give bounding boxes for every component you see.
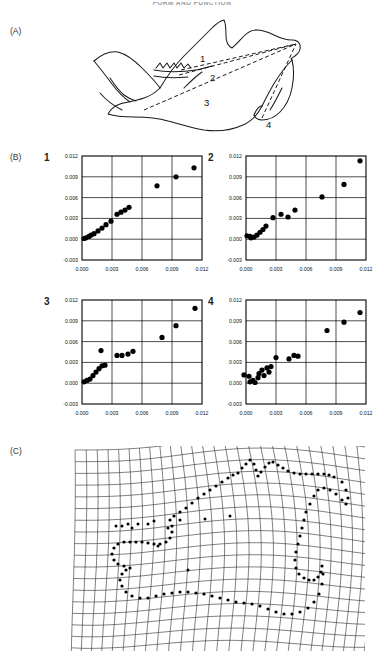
landmark-point (308, 502, 311, 505)
landmark-point (184, 506, 187, 509)
landmark-point (122, 564, 125, 567)
x-tick-label: 0.000 (76, 266, 89, 272)
landmark-point (124, 590, 127, 593)
landmark-point (153, 520, 156, 523)
landmark-point (317, 592, 320, 595)
landmark-point (312, 494, 315, 497)
landmark-point (131, 527, 134, 530)
data-point (273, 355, 278, 360)
landmark-point (236, 471, 239, 474)
landmark-point (170, 591, 173, 594)
panel-b-scatter-grid: 10.0120.0090.0060.0030.000-0.0030.0000.0… (0, 146, 384, 434)
x-tick-label: 0.009 (330, 266, 343, 272)
data-point (108, 219, 113, 224)
landmark-point (244, 462, 247, 465)
landmark-point (242, 601, 245, 604)
data-point (191, 165, 196, 170)
plot-canvas: 0.0120.0090.0060.0030.000-0.0030.0000.00… (42, 148, 220, 290)
data-point (263, 223, 268, 228)
x-tick-label: 0.006 (300, 266, 313, 272)
measurement-line-4 (262, 44, 296, 118)
data-point (357, 158, 362, 163)
landmark-point (116, 562, 119, 565)
y-tick-label: 0.000 (229, 236, 242, 242)
landmark-point (178, 590, 181, 593)
landmark-point (138, 596, 141, 599)
grid-line-horizontal (75, 471, 365, 485)
y-tick-label: 0.003 (65, 215, 78, 221)
y-tick-label: 0.012 (229, 153, 242, 159)
landmark-point (263, 465, 266, 468)
landmark-point (146, 541, 149, 544)
grid-line-horizontal (75, 483, 365, 497)
data-point (99, 226, 104, 231)
grid-line-vertical (224, 446, 237, 651)
landmark-point (130, 594, 133, 597)
y-tick-label: 0.003 (229, 359, 242, 365)
landmark-point (120, 584, 123, 587)
measurement-label-2: 2 (210, 72, 215, 83)
landmark-point (128, 566, 131, 569)
y-tick-label: 0.000 (65, 236, 78, 242)
running-head: FORM AND FUNCTION (0, 0, 384, 6)
grid-line-horizontal (75, 519, 365, 532)
measurement-label-1: 1 (200, 53, 205, 64)
landmark-point (322, 486, 325, 489)
y-tick-label: 0.012 (65, 297, 78, 303)
landmark-point (306, 606, 309, 609)
landmark-point (140, 540, 143, 543)
plot-canvas: 0.0120.0090.0060.0030.000-0.0030.0000.00… (206, 292, 384, 434)
landmark-point (344, 502, 347, 505)
landmark-point (304, 472, 307, 475)
landmark-point (316, 488, 319, 491)
landmark-point (320, 564, 323, 567)
landmark-point (229, 515, 232, 518)
landmark-point (112, 558, 115, 561)
landmark-point (134, 540, 137, 543)
x-tick-label: 0.000 (76, 410, 89, 416)
plot-canvas: 0.0120.0090.0060.0030.000-0.0030.0000.00… (42, 292, 220, 434)
data-point (192, 306, 197, 311)
data-point (98, 348, 103, 353)
scatter-plot-3: 30.0120.0090.0060.0030.000-0.0030.0000.0… (42, 292, 220, 434)
landmark-point (170, 530, 173, 533)
grid-line-vertical (112, 449, 120, 651)
landmark-point (256, 474, 259, 477)
grid-line-vertical (271, 446, 286, 651)
landmark-point (164, 540, 167, 543)
landmark-point (170, 524, 173, 527)
landmark-point (231, 473, 234, 476)
landmark-point (167, 527, 170, 530)
landmark-point (124, 568, 127, 571)
landmark-point (297, 572, 300, 575)
landmark-point (340, 480, 343, 483)
landmark-point (116, 542, 119, 545)
landmark-point (214, 484, 217, 487)
landmark-point (332, 475, 335, 478)
landmark-point (290, 612, 293, 615)
landmark-point (127, 523, 130, 526)
landmark-point (226, 476, 229, 479)
landmark-point (152, 542, 155, 545)
landmark-point (202, 592, 205, 595)
grid-line-vertical (259, 446, 274, 651)
landmark-point (294, 550, 297, 553)
landmark-point (252, 462, 255, 465)
landmark-point (300, 526, 303, 529)
landmark-point (121, 525, 124, 528)
x-tick-label: 0.006 (136, 410, 149, 416)
x-tick-label: 0.006 (300, 410, 313, 416)
y-tick-label: 0.003 (229, 215, 242, 221)
y-tick-label: 0.006 (65, 339, 78, 345)
landmark-point (204, 518, 207, 521)
landmark-point (298, 610, 301, 613)
y-tick-label: -0.003 (63, 401, 78, 407)
data-point (126, 205, 131, 210)
landmark-point (267, 461, 270, 464)
grid-line-horizontal (72, 616, 365, 626)
mandible-svg: 1 2 3 4 (80, 18, 328, 136)
landmark-point (312, 600, 315, 603)
data-point (114, 353, 119, 358)
grid-line-vertical (123, 449, 132, 651)
landmark-point (304, 510, 307, 513)
